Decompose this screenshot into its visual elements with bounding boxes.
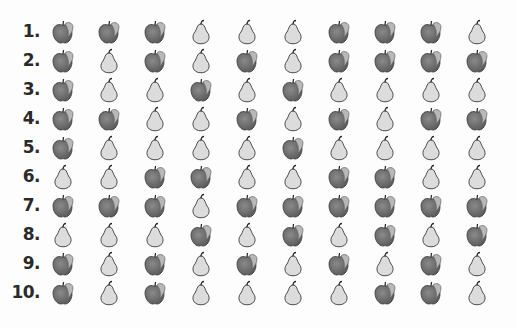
- row-number: 4.: [0, 108, 40, 128]
- apple-icon: [465, 106, 489, 132]
- row-number: 9.: [0, 253, 40, 273]
- apple-icon: [51, 251, 75, 277]
- worksheet-row: 1.: [0, 17, 517, 47]
- pear-icon: [51, 222, 75, 248]
- pear-icon: [465, 280, 489, 306]
- apple-icon: [51, 193, 75, 219]
- apple-icon: [419, 48, 443, 74]
- worksheet-row: 10.: [0, 278, 517, 308]
- pear-icon: [143, 77, 167, 103]
- apple-icon: [373, 193, 397, 219]
- apple-icon: [143, 48, 167, 74]
- apple-icon: [419, 280, 443, 306]
- apple-icon: [281, 193, 305, 219]
- pear-icon: [189, 251, 213, 277]
- worksheet-row: 3.: [0, 75, 517, 105]
- pear-icon: [189, 193, 213, 219]
- pear-icon: [327, 280, 351, 306]
- apple-icon: [465, 222, 489, 248]
- apple-icon: [51, 77, 75, 103]
- pear-icon: [327, 222, 351, 248]
- pear-icon: [143, 222, 167, 248]
- apple-icon: [189, 164, 213, 190]
- pear-icon: [189, 19, 213, 45]
- pear-icon: [419, 222, 443, 248]
- apple-icon: [281, 135, 305, 161]
- pear-icon: [465, 19, 489, 45]
- worksheet-row: 4.: [0, 104, 517, 134]
- apple-icon: [143, 193, 167, 219]
- pear-icon: [465, 164, 489, 190]
- pear-icon: [373, 251, 397, 277]
- apple-icon: [281, 77, 305, 103]
- row-number: 2.: [0, 50, 40, 70]
- pear-icon: [235, 222, 259, 248]
- apple-icon: [235, 193, 259, 219]
- pear-icon: [419, 164, 443, 190]
- apple-icon: [235, 48, 259, 74]
- apple-icon: [465, 193, 489, 219]
- pear-icon: [235, 77, 259, 103]
- pear-icon: [97, 251, 121, 277]
- pear-icon: [143, 106, 167, 132]
- apple-icon: [419, 251, 443, 277]
- apple-icon: [281, 222, 305, 248]
- pear-icon: [97, 48, 121, 74]
- pear-icon: [235, 164, 259, 190]
- apple-icon: [327, 251, 351, 277]
- apple-icon: [235, 106, 259, 132]
- row-number: 8.: [0, 224, 40, 244]
- pear-icon: [189, 135, 213, 161]
- pear-icon: [189, 280, 213, 306]
- pear-icon: [419, 77, 443, 103]
- worksheet-row: 2.: [0, 46, 517, 76]
- pear-icon: [235, 19, 259, 45]
- apple-icon: [97, 193, 121, 219]
- row-number: 3.: [0, 79, 40, 99]
- apple-icon: [373, 48, 397, 74]
- worksheet-row: 7.: [0, 191, 517, 221]
- pear-icon: [97, 280, 121, 306]
- apple-icon: [97, 19, 121, 45]
- pear-icon: [465, 135, 489, 161]
- worksheet-row: 5.: [0, 133, 517, 163]
- apple-icon: [51, 280, 75, 306]
- pear-icon: [327, 77, 351, 103]
- apple-icon: [235, 251, 259, 277]
- apple-icon: [373, 19, 397, 45]
- pear-icon: [51, 164, 75, 190]
- pear-icon: [97, 222, 121, 248]
- row-number: 10.: [0, 282, 40, 302]
- worksheet-row: 6.: [0, 162, 517, 192]
- apple-icon: [419, 19, 443, 45]
- apple-icon: [419, 193, 443, 219]
- apple-icon: [327, 106, 351, 132]
- apple-icon: [373, 222, 397, 248]
- worksheet-row: 9.: [0, 249, 517, 279]
- pear-icon: [189, 48, 213, 74]
- pear-icon: [373, 77, 397, 103]
- apple-icon: [419, 106, 443, 132]
- apple-icon: [327, 164, 351, 190]
- row-number: 1.: [0, 21, 40, 41]
- apple-icon: [51, 48, 75, 74]
- pear-icon: [97, 164, 121, 190]
- pear-icon: [465, 251, 489, 277]
- pear-icon: [235, 280, 259, 306]
- apple-icon: [51, 106, 75, 132]
- apple-icon: [327, 48, 351, 74]
- pear-icon: [189, 106, 213, 132]
- pear-icon: [419, 135, 443, 161]
- pear-icon: [281, 164, 305, 190]
- pear-icon: [97, 77, 121, 103]
- pear-icon: [97, 135, 121, 161]
- pear-icon: [281, 251, 305, 277]
- pear-icon: [235, 135, 259, 161]
- apple-icon: [143, 251, 167, 277]
- apple-icon: [327, 193, 351, 219]
- pear-icon: [327, 135, 351, 161]
- pear-icon: [465, 77, 489, 103]
- apple-icon: [143, 19, 167, 45]
- worksheet: 1.: [0, 0, 517, 328]
- pear-icon: [373, 135, 397, 161]
